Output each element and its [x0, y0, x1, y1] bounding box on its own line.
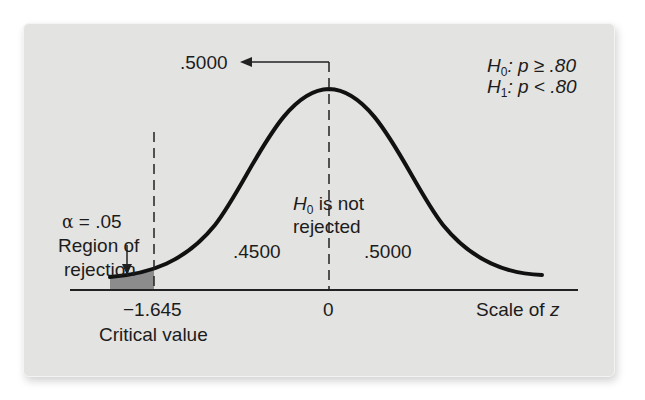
critical-value-label: Critical value	[99, 324, 208, 345]
h0-var: H	[487, 55, 501, 76]
normal-curve-diagram: .5000 H0: p ≥ .80 H1: p < .80 H0 is not …	[0, 0, 645, 400]
area-right-label: .5000	[364, 241, 412, 262]
area-left-label: .4500	[233, 241, 281, 262]
not-rejected-var: H	[293, 193, 307, 214]
x-axis-label-var: z	[549, 299, 560, 320]
normal-curve	[110, 89, 542, 277]
h1-hypothesis: H1: p < .80	[487, 76, 577, 100]
alpha-symbol: α	[62, 210, 74, 232]
not-rejected-line2: rejected	[293, 216, 361, 237]
alpha-value: = .05	[74, 211, 122, 232]
h1-text: : p < .80	[507, 76, 577, 97]
rejection-label-line2: rejection	[64, 259, 136, 280]
h1-var: H	[487, 76, 501, 97]
alpha-label: α = .05	[62, 210, 122, 232]
x-axis-label: Scale of z	[476, 299, 560, 320]
tick-zero: 0	[323, 299, 334, 320]
h0-text: : p ≥ .80	[507, 55, 576, 76]
not-rejected-line1: H0 is not	[293, 193, 365, 217]
top-arrow-label: .5000	[180, 52, 228, 73]
not-rejected-text: is not	[313, 193, 364, 214]
tick-critical: −1.645	[123, 299, 182, 320]
rejection-label-line1: Region of	[58, 235, 140, 256]
x-axis-label-text: Scale of	[476, 299, 550, 320]
arrow-left-icon	[240, 57, 252, 67]
